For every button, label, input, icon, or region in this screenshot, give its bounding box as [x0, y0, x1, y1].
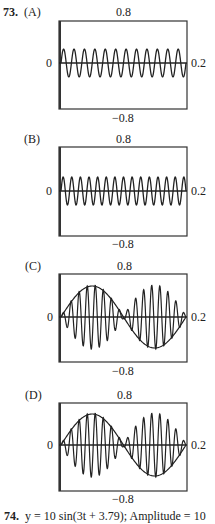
problem-text: y = 10 sin(3t + 3.79); Amplitude = 10 — [25, 509, 206, 523]
problem-74-line: 74. y = 10 sin(3t + 3.79); Amplitude = 1… — [4, 510, 206, 522]
panel-d: (D) 0.8 0 0.2 −0.8 — [0, 380, 215, 510]
plot-area — [0, 380, 215, 510]
plot-area — [0, 0, 215, 125]
plot-area — [0, 125, 215, 250]
problem-number: 74. — [4, 509, 19, 523]
panel-a: (A) 0.8 0 0.2 −0.8 — [0, 0, 215, 125]
panel-c: (C) 0.8 0 0.2 −0.8 — [0, 250, 215, 380]
panel-b: (B) 0.8 0 0.2 −0.8 — [0, 125, 215, 250]
plot-area — [0, 250, 215, 380]
